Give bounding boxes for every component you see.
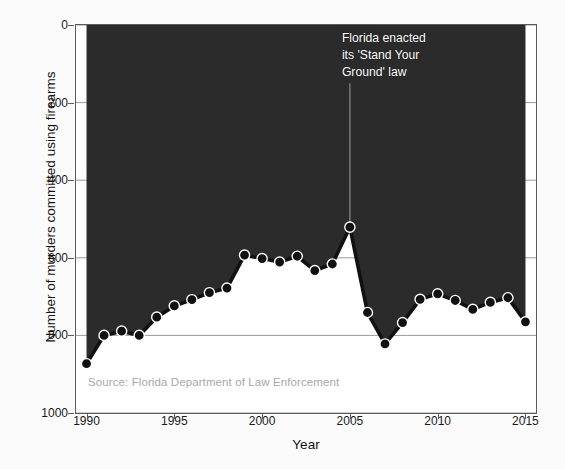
chart-svg	[76, 25, 536, 413]
data-point-marker	[397, 318, 407, 328]
y-tick-label: 800	[22, 328, 68, 342]
y-axis-tick-labels: 02004006008001000	[14, 0, 68, 469]
data-point-marker	[503, 293, 513, 303]
y-tick-mark	[68, 25, 74, 26]
data-point-marker	[187, 295, 197, 305]
annotation-line: Ground' law	[342, 64, 426, 81]
data-point-marker	[257, 253, 267, 263]
data-point-marker	[520, 317, 530, 327]
data-point-marker	[222, 283, 232, 293]
y-tick-label: 0	[22, 18, 68, 32]
data-point-marker	[327, 259, 337, 269]
x-tick-mark	[262, 413, 263, 419]
area-fill	[87, 25, 526, 364]
annotation-line: its 'Stand Your	[342, 47, 426, 64]
y-tick-label: 400	[22, 173, 68, 187]
data-point-marker	[134, 330, 144, 340]
x-tick-mark	[438, 413, 439, 419]
chart-annotation: 2005Florida enactedits 'Stand YourGround…	[342, 24, 426, 81]
data-point-marker	[117, 326, 127, 336]
source-note: Source: Florida Department of Law Enforc…	[88, 376, 339, 388]
y-tick-label: 200	[22, 96, 68, 110]
x-axis-title: Year	[75, 437, 537, 452]
data-point-marker	[415, 294, 425, 304]
chart-figure: Number of murders committed using firear…	[0, 0, 565, 469]
y-tick-mark	[68, 335, 74, 336]
x-tick-mark	[350, 413, 351, 419]
data-point-marker	[362, 307, 372, 317]
y-tick-mark	[68, 258, 74, 259]
y-tick-mark	[68, 103, 74, 104]
annotation-line: Florida enacted	[342, 30, 426, 47]
x-tick-mark	[87, 413, 88, 419]
data-point-marker	[345, 222, 355, 232]
data-point-marker	[310, 266, 320, 276]
data-point-marker	[275, 257, 285, 267]
data-point-marker	[292, 251, 302, 261]
x-tick-mark	[525, 413, 526, 419]
x-tick-mark	[174, 413, 175, 419]
data-point-marker	[152, 312, 162, 322]
data-point-marker	[239, 250, 249, 260]
data-point-marker	[204, 288, 214, 298]
plot-area: 2005Florida enactedits 'Stand YourGround…	[75, 24, 537, 414]
data-point-marker	[450, 295, 460, 305]
data-point-marker	[380, 339, 390, 349]
y-tick-label: 1000	[22, 406, 68, 420]
data-point-marker	[99, 330, 109, 340]
data-point-marker	[485, 297, 495, 307]
data-point-marker	[169, 301, 179, 311]
data-point-marker	[468, 304, 478, 314]
y-tick-mark	[68, 180, 74, 181]
y-tick-label: 600	[22, 251, 68, 265]
data-point-marker	[81, 359, 91, 369]
data-point-marker	[433, 289, 443, 299]
